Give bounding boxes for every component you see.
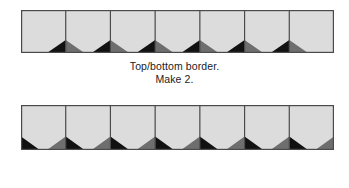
top-bottom-border-figure: Top/bottom border. Make 2.	[0, 0, 349, 94]
side-border-strip	[21, 105, 334, 150]
side-border-illustration	[21, 105, 334, 150]
side-border-figure: Side border. Make 2.	[0, 94, 349, 188]
top-bottom-border-caption: Top/bottom border. Make 2.	[0, 60, 349, 85]
top-bottom-border-strip	[21, 10, 334, 53]
top-bottom-border-illustration	[21, 10, 334, 53]
caption-line-primary: Top/bottom border.	[0, 60, 349, 73]
caption-line-quantity: Make 2.	[0, 73, 349, 86]
